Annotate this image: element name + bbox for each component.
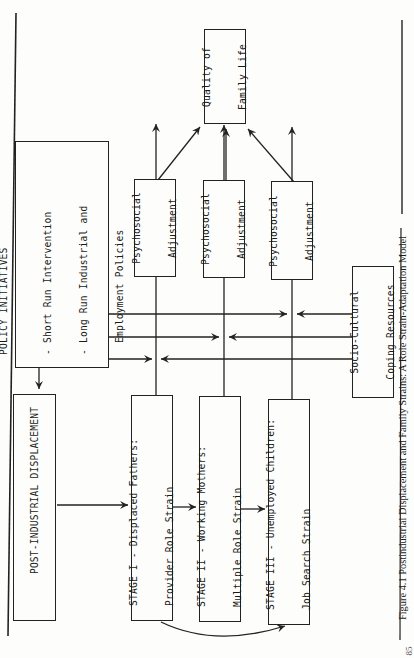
socio-cultural-coping-box: Socio-Cultural Coping Resources: [352, 266, 394, 398]
policy-item-short-run: - Short Run Intervention: [42, 145, 54, 365]
psychosocial-adjustment-box-1: Psychosocial Adjustment: [134, 179, 176, 277]
stage-1-box: STAGE I - Displaced Fathers: Provider Ro…: [131, 395, 173, 621]
policy-initiatives-box: POLICY INITIATIVES - Short Run Intervent…: [15, 141, 109, 368]
post-industrial-displacement-label: POST-INDUSTRIAL DISPLACEMENT: [29, 406, 40, 573]
psychosocial-adjustment-box-2: Psychosocial Adjustment: [203, 180, 245, 278]
stage-2-title: STAGE II - Working Mothers:: [196, 399, 208, 607]
psychosocial-adjustment-box-3: Psychosocial Adjustment: [271, 181, 313, 280]
policy-item-long-run: - Long Run Industrial and: [78, 145, 90, 365]
policy-initiatives-title: POLICY INITIATIVES: [0, 145, 10, 365]
stage-1-title: STAGE I - Displaced Fathers:: [128, 398, 140, 606]
quality-line2: Family Life: [237, 31, 249, 123]
post-industrial-displacement-box: POST-INDUSTRIAL DISPLACEMENT: [13, 394, 56, 621]
adjustment-3-line1: Psychosocial: [268, 183, 280, 279]
page-number: 85: [404, 647, 414, 656]
adjustment-2-line1: Psychosocial: [200, 181, 212, 277]
quality-line1: Quality of: [201, 31, 213, 123]
stage-3-strain: Job Search Strain: [301, 402, 313, 610]
adjustment-1-line1: Psychosocial: [131, 180, 143, 276]
coping-line1: Socio-Cultural: [349, 268, 361, 396]
stage-3-box: STAGE III - Unemployed Children: Job Sea…: [268, 399, 310, 625]
quality-of-family-life-box: Quality of Family Life: [204, 29, 246, 124]
coping-line2: Coping Resources: [385, 268, 397, 396]
stage-2-box: STAGE II - Working Mothers: Multiple Rol…: [199, 396, 241, 622]
stage-3-title: STAGE III - Unemployed Children:: [265, 402, 277, 610]
figure-caption: Figure 4.1 Postindustrial Displacement a…: [397, 236, 408, 620]
adjustment-3-line2: Adjustment: [304, 183, 316, 279]
